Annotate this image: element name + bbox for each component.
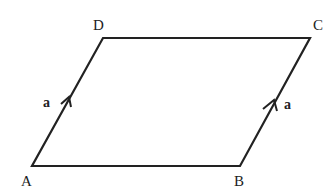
vertex-label-d: D (93, 18, 104, 33)
vertex-label-b: B (234, 174, 244, 189)
vertex-label-a: A (21, 174, 32, 189)
vector-label-left: a (43, 96, 50, 110)
parallelogram-abcd (32, 38, 310, 166)
vector-label-right: a (284, 98, 291, 112)
vertex-label-c: C (313, 18, 323, 33)
